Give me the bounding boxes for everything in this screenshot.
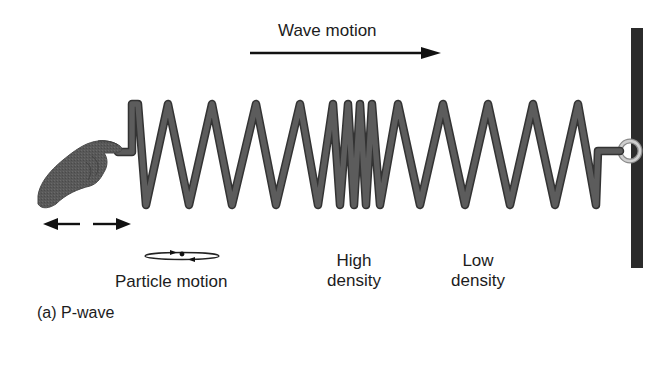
figure-caption: (a) P-wave: [37, 303, 114, 323]
spring-coil: [118, 104, 620, 205]
high-density-line-2: density: [318, 271, 390, 291]
high-density-label: High density: [318, 251, 390, 291]
low-density-label: Low density: [442, 251, 514, 291]
high-density-line-1: High: [318, 251, 390, 271]
low-density-line-2: density: [442, 271, 514, 291]
hand-motion-arrows-icon: [43, 218, 131, 230]
low-density-line-1: Low: [442, 251, 514, 271]
particle-motion-label: Particle motion: [115, 272, 227, 292]
particle-motion-icon: [145, 250, 219, 262]
wave-motion-label: Wave motion: [278, 21, 377, 41]
hand-icon: [38, 141, 122, 208]
wave-motion-arrow-icon: [250, 47, 441, 59]
